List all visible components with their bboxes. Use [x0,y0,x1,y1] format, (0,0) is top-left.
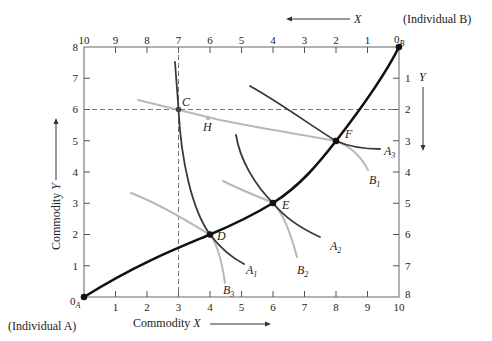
right-tick-labels: 1 2 3 4 5 6 7 8 [405,72,411,300]
svg-text:9: 9 [113,34,119,46]
right-ticks [393,78,399,266]
individual-b-label: (Individual B) [403,12,471,26]
svg-text:1: 1 [113,301,119,313]
svg-text:8: 8 [73,41,79,53]
curve-b1-label: B1 [369,173,380,189]
individual-a-label: (Individual A) [8,319,76,333]
point-c-label: C [182,95,191,109]
left-ticks [84,78,90,266]
a-indifference-curves [175,62,380,264]
bottom-x-axis-title: Commodity X [133,316,271,330]
box-frame [84,47,399,297]
origin-a-label: 0A [70,295,81,310]
svg-text:3: 3 [176,301,182,313]
svg-text:5: 5 [239,301,245,313]
svg-text:5: 5 [239,34,245,46]
svg-text:2: 2 [73,228,79,240]
svg-text:7: 7 [73,72,79,84]
point-d-label: D [216,229,226,243]
svg-text:8: 8 [144,34,150,46]
contract-curve [84,47,399,297]
svg-text:Y: Y [419,70,427,84]
svg-text:Commodity Y: Commodity Y [49,182,63,250]
point-c-dot [176,107,182,113]
svg-text:2: 2 [333,34,339,46]
svg-text:3: 3 [302,34,308,46]
svg-text:4: 4 [270,34,276,46]
curve-a2-label: A2 [329,239,341,255]
curve-a3-label: A3 [383,144,395,160]
curve-b3-label: B3 [223,283,234,299]
svg-text:1: 1 [405,72,411,84]
point-f-label: F [344,127,353,141]
svg-text:8: 8 [405,288,411,300]
bottom-ticks [116,291,368,297]
svg-text:2: 2 [144,301,150,313]
svg-text:4: 4 [73,166,79,178]
point-f-dot [333,138,340,145]
svg-text:4: 4 [405,166,411,178]
dashed-guides [84,47,399,297]
svg-text:6: 6 [207,34,213,46]
svg-text:6: 6 [270,301,276,313]
svg-text:10: 10 [394,301,406,313]
svg-text:7: 7 [405,260,411,272]
svg-text:1: 1 [73,260,79,272]
bottom-tick-labels: 1 2 3 4 5 6 7 8 9 10 [113,301,405,313]
top-tick-labels: 10 9 8 7 6 5 4 3 2 1 [79,34,371,46]
svg-text:5: 5 [73,135,79,147]
right-y-arrow: Y [419,70,427,151]
curve-b2-label: B2 [297,263,308,279]
svg-text:8: 8 [333,301,339,313]
svg-text:7: 7 [176,34,182,46]
svg-text:7: 7 [302,301,308,313]
svg-text:X: X [353,12,362,26]
curve-a3 [250,86,380,149]
svg-text:Commodity X: Commodity X [133,316,201,330]
svg-text:0A: 0A [70,295,81,310]
top-ticks [116,47,368,53]
point-e-dot [270,200,277,207]
svg-text:9: 9 [365,301,371,313]
b-indifference-curves [131,100,368,283]
svg-text:6: 6 [405,228,411,240]
svg-text:1: 1 [365,34,371,46]
svg-text:6: 6 [73,103,79,115]
svg-text:4: 4 [207,301,213,313]
point-d-dot [207,231,214,238]
left-y-axis-title: Commodity Y [49,118,63,250]
svg-text:3: 3 [73,197,79,209]
edgeworth-box-diagram: 1 2 3 4 5 6 7 8 9 10 10 9 8 7 6 5 4 3 2 … [0,0,492,341]
point-e-label: E [281,198,290,212]
left-tick-labels: 1 2 3 4 5 6 7 8 [73,41,79,272]
svg-text:10: 10 [79,34,91,46]
curve-b3 [131,193,225,283]
svg-text:2: 2 [405,103,411,115]
top-x-arrow: X [286,12,362,26]
curve-a2 [236,135,320,237]
origin-b-dot [396,44,403,51]
svg-text:5: 5 [405,197,411,209]
curve-b1 [138,100,368,170]
svg-text:3: 3 [405,135,411,147]
origin-a-dot [81,294,88,301]
curve-a1-label: A1 [245,263,257,279]
point-h-label: H [202,120,213,134]
